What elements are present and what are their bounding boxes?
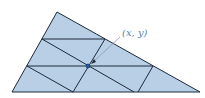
triangle [12,12,200,92]
point-label: (x, y) [122,27,148,38]
triangle-diagram: (x, y) [0,0,205,98]
point-marker [86,64,90,68]
